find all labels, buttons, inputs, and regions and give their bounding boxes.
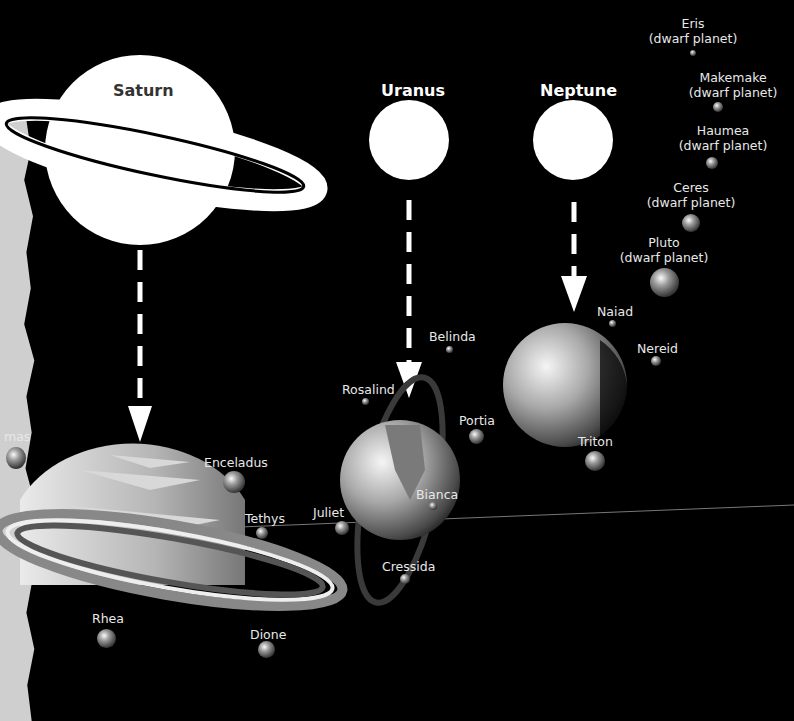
- naiad-moon-icon: [609, 320, 616, 327]
- saturn-illustration-icon: [0, 444, 348, 625]
- rosalind-moon-icon: [362, 398, 369, 405]
- haumea-icon: [706, 157, 718, 169]
- saturn-arrow-icon: [128, 250, 152, 442]
- pluto-name: Pluto: [614, 235, 714, 250]
- neptune-title: Neptune: [540, 81, 617, 100]
- enceladus-moon-icon: [223, 471, 245, 493]
- dwarf-planet-label-pluto: Pluto (dwarf planet): [614, 235, 714, 265]
- dwarf-planet-label-haumea: Haumea (dwarf planet): [673, 123, 773, 153]
- rhea-moon-icon: [97, 629, 116, 648]
- moon-label-bianca: Bianca: [416, 487, 458, 502]
- eris-icon: [690, 50, 696, 56]
- moon-label-portia: Portia: [459, 413, 495, 428]
- haumea-name: Haumea: [673, 123, 773, 138]
- mimas-moon-icon: [6, 447, 26, 469]
- dione-moon-icon: [258, 641, 275, 658]
- makemake-icon: [713, 102, 723, 112]
- moon-label-enceladus: Enceladus: [204, 455, 268, 470]
- makemake-name: Makemake: [677, 70, 789, 85]
- moon-label-tethys: Tethys: [245, 511, 285, 526]
- bianca-moon-icon: [429, 502, 437, 510]
- eris-name: Eris: [643, 16, 743, 31]
- cressida-moon-icon: [400, 574, 410, 584]
- ceres-icon: [682, 214, 700, 232]
- neptune-arrow-icon: [561, 202, 587, 312]
- moon-label-rhea: Rhea: [92, 611, 124, 626]
- moon-label-rosalind: Rosalind: [342, 382, 395, 397]
- makemake-type: (dwarf planet): [677, 85, 789, 100]
- eris-type: (dwarf planet): [643, 31, 743, 46]
- moon-label-nereid: Nereid: [637, 341, 678, 356]
- neptune-outline-icon: [533, 100, 613, 180]
- moon-label-belinda: Belinda: [429, 329, 476, 344]
- pluto-type: (dwarf planet): [614, 250, 714, 265]
- moon-label-triton: Triton: [578, 434, 613, 449]
- dwarf-planet-label-ceres: Ceres (dwarf planet): [641, 180, 741, 210]
- uranus-arrow-icon: [396, 200, 422, 398]
- tethys-moon-icon: [256, 527, 268, 539]
- uranus-title: Uranus: [381, 81, 445, 100]
- belinda-moon-icon: [446, 346, 453, 353]
- dwarf-planet-label-makemake: Makemake (dwarf planet): [677, 70, 789, 100]
- dwarf-planet-label-eris: Eris (dwarf planet): [643, 16, 743, 46]
- moon-label-cressida: Cressida: [382, 559, 435, 574]
- nereid-moon-icon: [651, 356, 661, 366]
- moon-label-naiad: Naiad: [597, 304, 633, 319]
- pluto-icon: [650, 268, 679, 297]
- haumea-type: (dwarf planet): [673, 138, 773, 153]
- moon-label-juliet: Juliet: [313, 505, 344, 520]
- saturn-title: Saturn: [113, 81, 174, 100]
- portia-moon-icon: [469, 429, 484, 444]
- triton-moon-icon: [585, 451, 605, 471]
- uranus-outline-icon: [369, 100, 449, 180]
- moon-label-dione: Dione: [250, 627, 286, 642]
- ceres-type: (dwarf planet): [641, 195, 741, 210]
- juliet-moon-icon: [335, 521, 349, 535]
- neptune-illustration-icon: [503, 323, 627, 450]
- moon-label-mimas-partial: mas: [4, 429, 30, 444]
- ceres-name: Ceres: [641, 180, 741, 195]
